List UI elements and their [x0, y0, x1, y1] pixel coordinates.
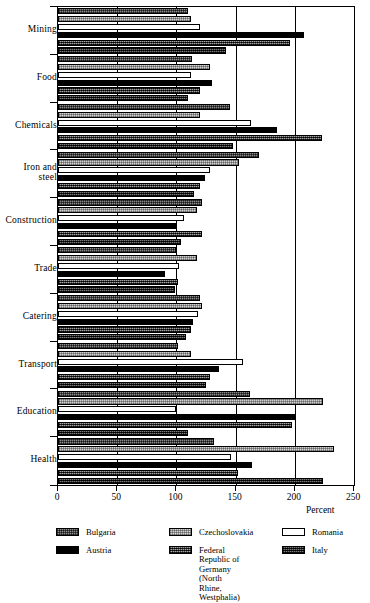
- x-tick-label-100: 100: [168, 492, 182, 502]
- bar-italy-4: [58, 239, 181, 245]
- legend-label: Czechoslovakia: [199, 528, 253, 538]
- bar-bulgaria-0: [58, 8, 188, 14]
- bar-austria-9: [58, 462, 252, 468]
- x-tick-label-250: 250: [346, 492, 360, 502]
- x-tick-200: [294, 486, 295, 491]
- legend-swatch-icon: [282, 528, 305, 536]
- bar-italy-0: [58, 47, 226, 53]
- bar-bulgaria-8: [58, 391, 250, 397]
- bar-federal-2: [58, 135, 322, 141]
- bar-federal-7: [58, 374, 210, 380]
- bar-romania-4: [58, 215, 184, 221]
- category-tick-5: [50, 245, 57, 246]
- bar-italy-3: [58, 191, 194, 197]
- category-tick-6: [50, 293, 57, 294]
- bar-czechoslovakia-2: [58, 112, 200, 118]
- category-tick-2: [50, 102, 57, 103]
- bar-federal-0: [58, 40, 290, 46]
- legend-swatch-icon: [169, 546, 192, 554]
- bar-federal-5: [58, 279, 178, 285]
- x-axis-title: Percent: [306, 505, 335, 515]
- plot-area: [57, 6, 355, 486]
- bar-czechoslovakia-0: [58, 16, 191, 22]
- bar-czechoslovakia-3: [58, 159, 239, 165]
- bar-austria-1: [58, 80, 212, 86]
- category-tick-end: [50, 485, 57, 486]
- bar-bulgaria-3: [58, 152, 259, 158]
- x-axis-ticks: 050100150200250: [57, 486, 355, 506]
- category-tick-3: [50, 149, 57, 150]
- bar-romania-0: [58, 24, 200, 30]
- category-tick-7: [50, 341, 57, 342]
- category-label-0: Mining: [28, 24, 57, 34]
- bar-italy-6: [58, 334, 186, 340]
- legend-swatch-icon: [56, 528, 79, 536]
- bar-federal-9: [58, 470, 238, 476]
- bar-romania-1: [58, 72, 191, 78]
- x-tick-label-50: 50: [111, 492, 121, 502]
- legend-label: Italy: [312, 546, 328, 556]
- bar-italy-9: [58, 478, 323, 484]
- category-tick-8: [50, 388, 57, 389]
- x-tick-label-150: 150: [227, 492, 241, 502]
- category-label-3: Iron and steel: [23, 162, 57, 182]
- legend-label: Austria: [86, 546, 111, 556]
- bar-austria-0: [58, 32, 304, 38]
- bar-federal-8: [58, 422, 292, 428]
- bar-romania-3: [58, 167, 210, 173]
- x-tick-100: [175, 486, 176, 491]
- bar-czechoslovakia-1: [58, 64, 210, 70]
- bar-bulgaria-6: [58, 295, 200, 301]
- bar-federal-1: [58, 87, 200, 93]
- bar-italy-1: [58, 95, 188, 101]
- bar-austria-5: [58, 271, 165, 277]
- bar-austria-2: [58, 127, 277, 133]
- category-tick-9: [50, 436, 57, 437]
- bar-austria-7: [58, 366, 219, 372]
- bar-bulgaria-7: [58, 343, 178, 349]
- bar-romania-7: [58, 359, 243, 365]
- bar-bulgaria-9: [58, 438, 214, 444]
- bar-federal-3: [58, 183, 200, 189]
- bar-federal-4: [58, 231, 202, 237]
- x-tick-150: [235, 486, 236, 491]
- bar-romania-6: [58, 311, 198, 317]
- category-tick-4: [50, 197, 57, 198]
- bar-austria-8: [58, 414, 295, 420]
- x-tick-250: [353, 486, 354, 491]
- category-label-2: Chemicals: [15, 120, 57, 130]
- bar-austria-4: [58, 223, 176, 229]
- x-tick-label-200: 200: [287, 492, 301, 502]
- bar-bulgaria-1: [58, 56, 192, 62]
- bar-italy-8: [58, 430, 188, 436]
- category-label-4: Construction: [6, 215, 57, 225]
- bar-romania-2: [58, 120, 251, 126]
- bar-bulgaria-5: [58, 247, 176, 253]
- category-tick-0: [50, 6, 57, 7]
- legend-label: Bulgaria: [86, 528, 116, 538]
- bar-romania-5: [58, 263, 179, 269]
- category-label-7: Transport: [19, 359, 57, 369]
- bar-federal-6: [58, 326, 191, 332]
- category-label-8: Education: [17, 406, 57, 416]
- category-label-9: Health: [30, 454, 57, 464]
- legend-swatch-icon: [169, 528, 192, 536]
- bar-czechoslovakia-7: [58, 351, 191, 357]
- bar-romania-8: [58, 406, 176, 412]
- gridline-200: [295, 7, 296, 485]
- legend-swatch-icon: [282, 546, 305, 554]
- x-tick-0: [57, 486, 58, 491]
- bar-romania-9: [58, 454, 231, 460]
- category-label-6: Catering: [23, 311, 57, 321]
- x-tick-label-0: 0: [55, 492, 60, 502]
- bar-italy-5: [58, 286, 175, 292]
- legend-swatch-icon: [56, 546, 79, 554]
- legend-label: Romania: [312, 528, 343, 538]
- bar-czechoslovakia-5: [58, 255, 197, 261]
- category-label-1: Food: [37, 72, 57, 82]
- bar-italy-2: [58, 143, 233, 149]
- chart-legend: BulgariaCzechoslovakiaRomaniaAustriaFede…: [56, 528, 356, 576]
- x-tick-50: [116, 486, 117, 491]
- bar-italy-7: [58, 382, 206, 388]
